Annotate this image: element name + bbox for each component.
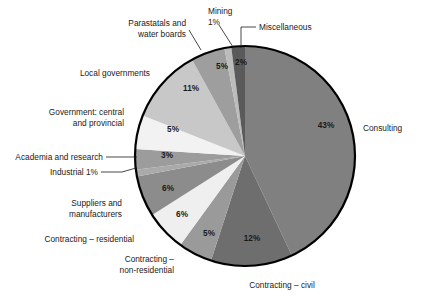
label-industrial: Industrial 1% [50, 167, 99, 177]
label-mining-line1: Mining [208, 6, 233, 16]
label-contracting-civil: Contracting – civil [249, 280, 315, 290]
label-academia-research: Academia and research [15, 152, 103, 162]
label-parastatals-line2: water boards [137, 29, 186, 39]
label-government-line1: Government: central [49, 107, 124, 117]
percent-contracting-civil: 12% [244, 234, 261, 243]
pie-chart-figure: Consulting Contracting – civil Contracti… [0, 0, 430, 298]
label-parastatals-line1: Parastatals and [128, 18, 186, 28]
label-suppliers-line2: manufacturers [69, 209, 122, 219]
percent-suppliers: 6% [162, 184, 175, 193]
label-contracting-residential: Contracting – residential [45, 234, 135, 244]
percent-local-governments: 11% [183, 84, 200, 93]
percent-government: 5% [167, 125, 180, 134]
pie-chart-canvas: Consulting Contracting – civil Contracti… [0, 0, 430, 298]
label-government-line2: and provincial [73, 118, 124, 128]
label-miscellaneous: Miscellaneous [259, 22, 312, 32]
percent-contracting-residential: 6% [176, 210, 189, 219]
label-contracting-non-residential-line2: non-residential [120, 265, 175, 275]
percent-contracting-non-residential: 5% [203, 229, 216, 238]
label-suppliers-line1: Suppliers and [71, 198, 122, 208]
label-local-governments: Local governments [80, 68, 150, 78]
percent-consulting: 43% [318, 121, 335, 130]
percent-miscellaneous: 2% [235, 58, 248, 67]
percent-academia: 3% [161, 151, 174, 160]
label-consulting: Consulting [363, 123, 403, 133]
percent-parastatals: 5% [216, 62, 229, 71]
label-contracting-non-residential-line1: Contracting – [125, 254, 175, 264]
label-mining-line2: 1% [208, 17, 221, 27]
